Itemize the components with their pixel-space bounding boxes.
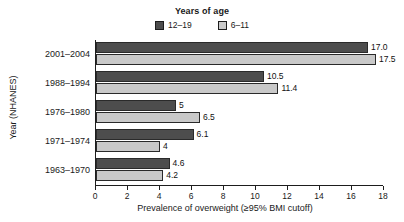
bar[interactable] [96, 112, 200, 123]
bar-value-label: 6.5 [203, 111, 215, 123]
legend-swatch-6-11 [218, 21, 227, 30]
bar[interactable] [96, 141, 160, 152]
bar-value-label: 11.4 [281, 82, 297, 94]
chart-legend: Years of age 12–19 6–11 [0, 6, 404, 30]
x-axis-tick-label: 18 [378, 191, 387, 201]
bar-value-label: 17.5 [379, 53, 396, 65]
legend-item-6-11: 6–11 [218, 20, 249, 30]
bar-value-label: 4.6 [173, 157, 185, 169]
bar-value-label: 10.5 [267, 70, 284, 82]
bar-value-label: 6.1 [197, 128, 209, 140]
legend-label-12-19: 12–19 [168, 20, 192, 30]
bar-row: 6.1 [96, 129, 384, 140]
bar[interactable] [96, 170, 163, 181]
bar-row: 17.0 [96, 42, 384, 53]
bar-row: 11.4 [96, 83, 384, 94]
bar-value-label: 17.0 [371, 41, 388, 53]
bar-row: 5 [96, 100, 384, 111]
bar-group: 17.017.5 [96, 40, 383, 69]
bar-row: 4.2 [96, 170, 384, 181]
bar-value-label: 4.2 [166, 169, 178, 181]
x-axis-tick-label: 4 [157, 191, 162, 201]
x-axis-tick [383, 186, 384, 190]
bar-row: 4.6 [96, 158, 384, 169]
bar-value-label: 4 [163, 140, 168, 152]
x-axis-tick [95, 186, 96, 190]
legend-items: 12–19 6–11 [0, 20, 404, 30]
bar-group: 4.64.2 [96, 156, 383, 185]
x-axis-tick [191, 186, 192, 190]
bar-group: 6.14 [96, 127, 383, 156]
x-axis-tick-label: 12 [282, 191, 291, 201]
plot-area: 17.017.510.511.456.56.144.64.20246810121… [95, 40, 383, 185]
x-axis-tick [159, 186, 160, 190]
x-axis-line [95, 185, 383, 186]
x-axis-tick [255, 186, 256, 190]
bar[interactable] [96, 42, 368, 53]
bar-row: 17.5 [96, 54, 384, 65]
bar[interactable] [96, 129, 194, 140]
x-axis-tick-label: 16 [346, 191, 355, 201]
x-axis-tick [127, 186, 128, 190]
bar-value-label: 5 [179, 99, 184, 111]
x-axis-tick [319, 186, 320, 190]
bar[interactable] [96, 71, 264, 82]
bar[interactable] [96, 54, 376, 65]
x-axis-tick [223, 186, 224, 190]
bar[interactable] [96, 158, 170, 169]
x-axis-tick [351, 186, 352, 190]
x-axis-tick [287, 186, 288, 190]
bar-chart-figure: Years of age 12–19 6–11 2001–20041988–19… [0, 0, 404, 222]
bar-row: 4 [96, 141, 384, 152]
x-axis-tick-label: 14 [314, 191, 323, 201]
legend-swatch-12-19 [155, 21, 164, 30]
bar[interactable] [96, 100, 176, 111]
bar-group: 10.511.4 [96, 69, 383, 98]
x-axis-title: Prevalence of overweight (≥95% BMI cutof… [60, 203, 390, 214]
legend-title: Years of age [0, 6, 404, 17]
legend-item-12-19: 12–19 [155, 20, 192, 30]
x-axis-tick-label: 2 [125, 191, 130, 201]
y-axis-title: Year (NHANES) [8, 43, 19, 173]
bar-row: 6.5 [96, 112, 384, 123]
bar-group: 56.5 [96, 98, 383, 127]
x-axis-tick-label: 0 [93, 191, 98, 201]
x-axis-tick-label: 10 [250, 191, 259, 201]
x-axis-tick-label: 6 [189, 191, 194, 201]
bar-row: 10.5 [96, 71, 384, 82]
legend-label-6-11: 6–11 [231, 20, 249, 30]
bar[interactable] [96, 83, 278, 94]
x-axis-tick-label: 8 [221, 191, 226, 201]
